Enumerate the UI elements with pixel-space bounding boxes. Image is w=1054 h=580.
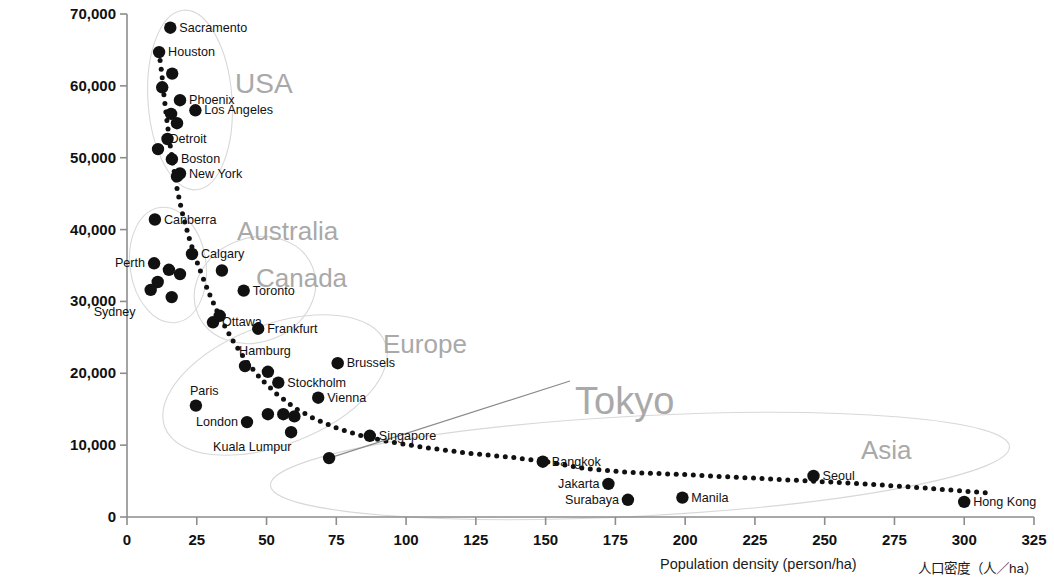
y-tick-label: 10,000 — [70, 436, 116, 453]
city-label: Sacramento — [179, 22, 247, 35]
x-tick-label: 75 — [306, 531, 366, 548]
city-label: London — [196, 416, 238, 429]
city-label: Sydney — [94, 306, 136, 319]
x-tick-label: 325 — [1004, 531, 1054, 548]
region-label: Canada — [256, 265, 347, 291]
x-tick-label: 50 — [237, 531, 297, 548]
city-label: Stockholm — [287, 377, 346, 390]
region-label: Australia — [237, 218, 338, 244]
city-label: Vienna — [327, 392, 366, 405]
y-tick-label: 50,000 — [70, 149, 116, 166]
x-tick-label: 275 — [864, 531, 924, 548]
city-label: Kuala Lumpur — [213, 441, 291, 454]
region-label: Tokyo — [575, 382, 674, 420]
scatter-plot — [0, 0, 1054, 580]
x-tick-label: 25 — [167, 531, 227, 548]
city-label: Manila — [691, 492, 728, 505]
y-tick-label: 70,000 — [70, 5, 116, 22]
y-tick-label: 0 — [108, 508, 116, 525]
city-label: Surabaya — [565, 494, 619, 507]
region-label: Europe — [383, 331, 467, 357]
city-label: Canberra — [164, 214, 217, 227]
city-label: Ottawa — [222, 316, 262, 329]
city-label: New York — [189, 168, 242, 181]
city-label: Boston — [181, 153, 220, 166]
x-tick-label: 0 — [97, 531, 157, 548]
region-label: Asia — [861, 437, 912, 463]
chart-canvas: Private traffic energy consumption (MJ/ … — [0, 0, 1054, 580]
x-tick-label: 250 — [795, 531, 855, 548]
city-label: Detroit — [169, 133, 206, 146]
x-tick-label: 300 — [934, 531, 994, 548]
x-tick-label: 175 — [585, 531, 645, 548]
y-tick-label: 40,000 — [70, 221, 116, 238]
x-tick-label: 150 — [516, 531, 576, 548]
city-label: Brussels — [347, 357, 395, 370]
city-label: Frankfurt — [267, 323, 317, 336]
city-label: Houston — [168, 46, 215, 59]
x-tick-label: 225 — [725, 531, 785, 548]
city-label: Hong Kong — [973, 496, 1036, 509]
x-tick-label: 100 — [376, 531, 436, 548]
region-label: USA — [235, 70, 293, 98]
city-label: Singapore — [379, 430, 436, 443]
x-tick-label: 125 — [446, 531, 506, 548]
city-label: Paris — [190, 385, 219, 398]
y-tick-label: 60,000 — [70, 77, 116, 94]
city-label: Seoul — [823, 470, 855, 483]
city-label: Calgary — [201, 248, 244, 261]
x-tick-label: 200 — [655, 531, 715, 548]
y-tick-label: 20,000 — [70, 364, 116, 381]
city-label: Los Angeles — [204, 104, 273, 117]
city-label: Jakarta — [558, 478, 599, 491]
city-label: Perth — [115, 257, 145, 270]
city-label: Bangkok — [552, 456, 601, 469]
city-label: Hamburg — [239, 345, 291, 358]
